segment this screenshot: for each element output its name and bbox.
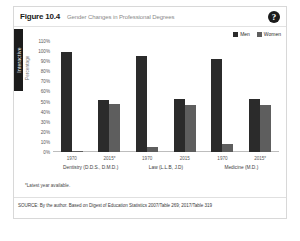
bar-groups: 19702015*Dentistry (D.D.S., D.M.D.)19702…: [53, 41, 279, 152]
bar-period: 2015*: [243, 41, 277, 152]
group-label: Dentistry (D.D.S., D.M.D.): [53, 165, 128, 170]
bar-men[interactable]: [174, 99, 185, 152]
help-icon[interactable]: ?: [268, 11, 280, 23]
y-tick-label: 50%: [28, 99, 50, 104]
bar-men[interactable]: [249, 99, 260, 152]
interactive-tab-label: Interactive: [16, 47, 22, 72]
figure-screenshot: Figure 10.4 Gender Changes in Profession…: [0, 0, 300, 241]
y-tick-label: 40%: [28, 109, 50, 114]
bar-group: 19702015*Dentistry (D.D.S., D.M.D.): [53, 41, 128, 152]
y-tick-label: 30%: [28, 119, 50, 124]
bar-group: 19702015Law (L.L.B, J.D): [128, 41, 203, 152]
chart-legend: Men Women: [233, 31, 281, 37]
y-tick-label: 90%: [28, 59, 50, 64]
bar-men[interactable]: [136, 56, 147, 152]
x-tick-label: 2015*: [92, 156, 126, 161]
bar-period: 1970: [55, 41, 89, 152]
bar-women[interactable]: [109, 104, 120, 152]
y-tick-label: 0%: [28, 150, 50, 155]
figure-number: Figure 10.4: [20, 12, 60, 21]
figure-title: Gender Changes in Professional Degrees: [67, 14, 174, 20]
x-tick-label: 2015: [168, 156, 202, 161]
bar-women[interactable]: [260, 105, 271, 152]
bar-men[interactable]: [61, 52, 72, 152]
x-tick-label: 1970: [55, 156, 89, 161]
y-tick-label: 60%: [28, 89, 50, 94]
chart-area: Men Women Percentage 110%100%90%80%70%60…: [23, 28, 285, 178]
legend-swatch-women: [257, 32, 262, 37]
bar-men[interactable]: [211, 59, 222, 152]
group-label: Medicine (M.D.): [204, 165, 279, 170]
bar-women[interactable]: [185, 105, 196, 152]
footnote: *Latest year available.: [25, 183, 70, 188]
bar-period: 1970: [205, 41, 239, 152]
y-tick-label: 70%: [28, 79, 50, 84]
x-tick-label: 1970: [130, 156, 164, 161]
x-tick-label: 2015*: [243, 156, 277, 161]
y-tick-label: 10%: [28, 139, 50, 144]
source-text: SOURCE: By the author. Based on Digest o…: [18, 203, 212, 208]
bar-period: 2015*: [92, 41, 126, 152]
y-tick-label: 80%: [28, 69, 50, 74]
legend-label-men: Men: [240, 31, 250, 37]
legend-item-women[interactable]: Women: [257, 31, 281, 37]
figure-card: Figure 10.4 Gender Changes in Profession…: [13, 6, 287, 219]
bar-group: 19702015*Medicine (M.D.): [204, 41, 279, 152]
interactive-tab[interactable]: Interactive: [14, 29, 23, 91]
bar-women[interactable]: [147, 147, 158, 152]
bar-men[interactable]: [98, 100, 109, 152]
plot-area: 110%100%90%80%70%60%50%40%30%20%10%0% 19…: [53, 41, 279, 152]
bar-period: 2015: [168, 41, 202, 152]
bar-women[interactable]: [222, 144, 233, 152]
source-divider: [14, 197, 286, 198]
legend-label-women: Women: [264, 31, 281, 37]
bar-period: 1970: [130, 41, 164, 152]
legend-swatch-men: [233, 32, 238, 37]
legend-item-men[interactable]: Men: [233, 31, 250, 37]
group-label: Law (L.L.B, J.D): [128, 165, 203, 170]
y-tick-label: 20%: [28, 129, 50, 134]
figure-header: Figure 10.4 Gender Changes in Profession…: [14, 7, 286, 27]
bar-women[interactable]: [72, 151, 83, 152]
x-tick-label: 1970: [205, 156, 239, 161]
y-tick-label: 100%: [28, 49, 50, 54]
y-tick-label: 110%: [28, 39, 50, 44]
